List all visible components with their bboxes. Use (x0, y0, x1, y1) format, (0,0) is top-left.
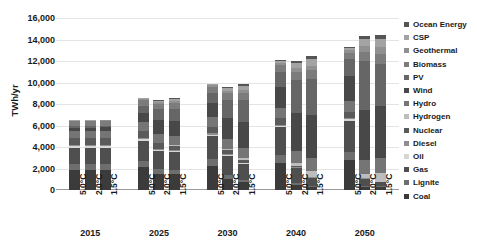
y-axis-tick-label: 14,000 (7, 35, 55, 45)
bar-segment-wind (138, 113, 149, 123)
bar-segment-hydro (207, 117, 218, 126)
bar-segment-nuclear (85, 138, 96, 145)
plot-area (56, 18, 399, 190)
legend-item[interactable]: Wind (404, 84, 477, 97)
y-axis-tick-label: 6,000 (7, 121, 55, 131)
legend-swatch-icon (404, 75, 409, 80)
bar-segment-lignite (275, 155, 286, 163)
bar-segment-wind (153, 120, 164, 133)
bar-segment-wind (375, 106, 386, 159)
bar-segment-pv (359, 61, 370, 110)
bar-segment-pv (291, 80, 302, 113)
legend-item-label: Ocean Energy (413, 20, 467, 29)
legend-swatch-icon (404, 35, 409, 40)
y-axis-tick-label: 16,000 (7, 13, 55, 23)
bar-segment-nuclear (100, 138, 111, 145)
legend-item[interactable]: PV (404, 71, 477, 84)
legend-item-label: Nuclear (413, 126, 442, 135)
bar-segment-hydro (69, 131, 80, 138)
legend-swatch-icon (404, 22, 409, 27)
x-axis-year-label: 2050 (355, 228, 375, 238)
bar-2050-2.0[interactable] (359, 36, 370, 190)
x-axis-year-label: 2015 (80, 228, 100, 238)
bar-segment-hydro (138, 122, 149, 130)
bar-segment-biomass (238, 93, 249, 100)
legend-item-label: PV (413, 73, 424, 82)
legend-item[interactable]: Oil (404, 150, 477, 163)
bar-2040-5.0[interactable] (275, 60, 286, 190)
bar-segment-pv (275, 72, 286, 88)
x-axis-scenario-label: 5.0°C (147, 174, 157, 195)
bar-2040-1.5[interactable] (306, 56, 317, 190)
legend-item[interactable]: Hydro (404, 97, 477, 110)
bar-segment-wind (291, 113, 302, 151)
legend-item-label: Biomass (413, 60, 446, 69)
legend-swatch-icon (404, 114, 409, 119)
bar-segment-gas (138, 141, 149, 161)
x-axis-scenario-label: 5.0°C (78, 174, 88, 195)
x-axis-scenario-label: 5.0°C (353, 174, 363, 195)
y-axis-tick-label: 0 (7, 185, 55, 195)
legend-swatch-icon (404, 88, 409, 93)
legend-swatch-icon (404, 167, 409, 172)
legend-item[interactable]: Diesel (404, 137, 477, 150)
bar-2040-2.0[interactable] (291, 61, 302, 190)
legend-item[interactable]: Coal (404, 189, 477, 202)
x-axis-scenario-label: 1.5°C (109, 174, 119, 195)
bar-segment-biomass (375, 54, 386, 64)
legend-item-label: Diesel (413, 139, 437, 148)
gridline (56, 18, 399, 19)
legend-swatch-icon (404, 101, 409, 106)
legend-item-label: Coal (413, 192, 430, 201)
bar-segment-gas (275, 127, 286, 155)
x-axis-scenario-label: 1.5°C (384, 174, 394, 195)
bar-segment-biomass (306, 70, 317, 78)
legend-swatch-icon (404, 128, 409, 133)
bar-segment-hydro (306, 158, 317, 171)
bar-segment-hydro (375, 158, 386, 173)
legend-item[interactable]: Ocean Energy (404, 18, 477, 31)
legend-item[interactable]: Hydrogen (404, 110, 477, 123)
x-axis-scenario-label: 5.0°C (216, 174, 226, 195)
y-axis-tick-labels: 02,0004,0006,0008,00010,00012,00014,0001… (0, 0, 55, 247)
bar-segment-hydro (359, 160, 370, 174)
bar-segment-pv (169, 109, 180, 121)
bar-segment-wind (222, 118, 233, 139)
legend-item[interactable]: Biomass (404, 58, 477, 71)
legend-swatch-icon (404, 62, 409, 67)
bar-2050-5.0[interactable] (344, 47, 355, 190)
legend-item[interactable]: Geothermal (404, 44, 477, 57)
bar-segment-gas (100, 148, 111, 164)
bar-segment-pv (138, 106, 149, 113)
legend-item[interactable]: Nuclear (404, 124, 477, 137)
bar-segment-gas (344, 121, 355, 152)
bar-segment-wind (344, 76, 355, 101)
legend-item[interactable]: Gas (404, 163, 477, 176)
bar-segment-geothermal (375, 47, 386, 54)
bar-segment-hydro (100, 131, 111, 139)
legend-item-label: Oil (413, 152, 424, 161)
bar-segment-nuclear (69, 138, 80, 145)
bar-segment-hydro (238, 148, 249, 159)
legend-swatch-icon (404, 48, 409, 53)
x-axis-year-label: 2025 (149, 228, 169, 238)
bar-segment-biomass (344, 53, 355, 60)
bar-segment-pv (222, 100, 233, 118)
legend-item[interactable]: Lignite (404, 176, 477, 189)
bar-segment-csp (375, 39, 386, 48)
bar-segment-hydro (344, 101, 355, 112)
legend-item-label: Gas (413, 165, 428, 174)
bar-2050-1.5[interactable] (375, 35, 386, 190)
bar-segment-nuclear (207, 127, 218, 134)
bar-segment-biomass (291, 72, 302, 80)
bar-segment-wind (238, 122, 249, 148)
bar-segment-pv (344, 59, 355, 76)
bar-segment-gas (69, 148, 80, 164)
legend-item[interactable]: CSP (404, 31, 477, 44)
bar-segment-hydro (275, 108, 286, 119)
legend-item-label: Hydrogen (413, 112, 450, 121)
bar-segment-hydro (153, 134, 164, 143)
bar-segment-lignite (344, 152, 355, 160)
x-axis-scenario-label: 2.0°C (300, 174, 310, 195)
bar-segment-biomass (359, 52, 370, 61)
